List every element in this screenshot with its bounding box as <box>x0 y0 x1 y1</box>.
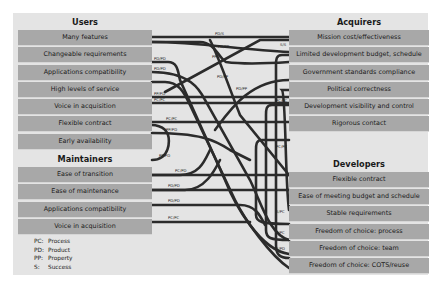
link-label: PD/PD <box>168 183 180 188</box>
acquirers-item: Limited development budget, schedule <box>289 47 429 63</box>
link-label: PC/PD <box>175 168 187 173</box>
users-item: Flexible contract <box>18 116 152 132</box>
link-label: PC/PC <box>154 97 166 102</box>
link-label: S/PD <box>276 246 285 251</box>
link-label: PD/PD <box>154 66 166 71</box>
link-label: PD/PD <box>154 56 166 61</box>
group-title-users: Users <box>18 14 152 30</box>
acquirers-item: Rigorous contact <box>289 116 429 132</box>
legend-entry: PP:Property <box>34 254 73 263</box>
developers-item: Freedom of choice: COTS/reuse <box>289 258 429 274</box>
users-item: High levels of service <box>18 82 152 98</box>
left-column: Users Many features Changeable requireme… <box>18 14 152 236</box>
acquirers-item: Development visibility and control <box>289 99 429 115</box>
users-item: Many features <box>18 30 152 46</box>
acquirers-item: Political correctness <box>289 82 429 98</box>
developers-item: Freedom of choice: team <box>289 241 429 257</box>
legend: PC:Process PD:Product PP:Property S:Succ… <box>34 237 73 271</box>
acquirers-item: Mission cost/effectiveness <box>289 30 429 46</box>
link-label: PD/S <box>215 31 224 36</box>
link-label: PC/PC <box>276 144 288 149</box>
maintainers-item: Voice in acquisition <box>18 219 152 235</box>
spacer <box>289 134 429 156</box>
legend-entry: PC:Process <box>34 237 73 246</box>
link-label: S/PC <box>276 230 285 235</box>
developers-item: Stable requirements <box>289 206 429 222</box>
link-label: PD/PP <box>236 86 248 91</box>
link-label: PP/PD <box>154 91 165 96</box>
users-item: Early availability <box>18 134 152 150</box>
users-item: Applications compatibility <box>18 65 152 81</box>
link-label: S/S <box>280 42 287 47</box>
maintainers-item: Ease of maintenance <box>18 184 152 200</box>
link-label: S/PC <box>276 209 285 214</box>
acquirers-item: Government standards compliance <box>289 65 429 81</box>
developers-item: Flexible contract <box>289 172 429 188</box>
link-label: PP/PD <box>166 127 177 132</box>
link-label: PC/PC <box>166 116 178 121</box>
developers-item: Ease of meeting budget and schedule <box>289 189 429 205</box>
right-column: Acquirers Mission cost/effectiveness Lim… <box>289 14 429 276</box>
link-label: PC/PC <box>168 215 180 220</box>
link-label: PC/PC <box>276 98 288 103</box>
link-label: PD/PP <box>218 44 230 49</box>
group-title-developers: Developers <box>289 156 429 172</box>
maintainers-item: Ease of transition <box>18 167 152 183</box>
legend-entry: PD:Product <box>34 246 73 255</box>
group-title-acquirers: Acquirers <box>289 14 429 30</box>
link-label: PP/S <box>212 54 221 59</box>
link-label: PD/PD <box>168 198 180 203</box>
legend-entry: S:Success <box>34 263 73 272</box>
group-title-maintainers: Maintainers <box>18 151 152 167</box>
maintainers-item: Applications compatibility <box>18 202 152 218</box>
link-label: PP/PD <box>159 153 170 158</box>
link-label: PD/PP <box>217 74 229 79</box>
developers-item: Freedom of choice: process <box>289 224 429 240</box>
users-item: Changeable requirements <box>18 47 152 63</box>
users-item: Voice in acquisition <box>18 99 152 115</box>
